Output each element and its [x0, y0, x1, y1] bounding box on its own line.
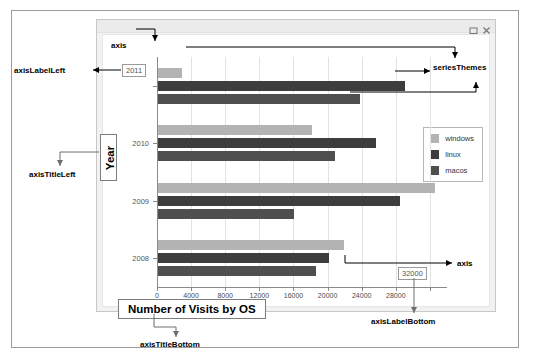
x-tick: [293, 287, 294, 291]
callout-axis-label-bottom: axisLabelBottom: [371, 317, 435, 326]
bar-macos-2008: [158, 266, 316, 276]
bar-macos-2011: [158, 94, 360, 104]
window-controls: [469, 21, 491, 30]
gridline: [396, 57, 397, 287]
legend-swatch-icon: [430, 166, 439, 175]
bar-chart: windowslinuxmacos 0400080001200016000200…: [103, 35, 489, 306]
x-tick-label: 8000: [217, 292, 233, 299]
x-tick: [157, 287, 158, 291]
axis-label-left-highlight[interactable]: 2011: [122, 64, 146, 77]
bar-linux-2008: [158, 253, 329, 263]
y-tick: [153, 201, 157, 202]
axis-title-left-text: Year: [104, 136, 116, 181]
gridline: [430, 57, 431, 287]
callout-series-themes: seriesThemes: [433, 63, 486, 72]
legend-swatch-icon: [430, 150, 439, 159]
y-tick-label: 2009: [109, 196, 149, 205]
x-tick-label: 0: [155, 292, 159, 299]
bar-linux-2009: [158, 196, 400, 206]
x-tick-label: 28000: [386, 292, 405, 299]
axis-title-bottom-highlight[interactable]: Number of Visits by OS: [118, 299, 266, 319]
chart-legend: windowslinuxmacos: [423, 127, 483, 182]
bar-windows-2009: [158, 183, 435, 193]
x-tick-label: 20000: [318, 292, 337, 299]
legend-label: macos: [445, 166, 467, 175]
x-axis-line: [157, 287, 447, 288]
axis-label-bottom-highlight[interactable]: 32000: [398, 267, 427, 280]
gridline: [362, 57, 363, 287]
y-tick: [153, 86, 157, 87]
bar-windows-2008: [158, 240, 344, 250]
legend-item-windows[interactable]: windows: [430, 134, 474, 143]
bar-macos-2009: [158, 209, 294, 219]
maximize-icon[interactable]: [469, 21, 478, 30]
y-tick-label: 2008: [109, 254, 149, 263]
legend-swatch-icon: [430, 134, 439, 143]
x-tick-label: 12000: [250, 292, 269, 299]
x-tick: [191, 287, 192, 291]
close-icon[interactable]: [482, 21, 491, 30]
y-tick: [153, 258, 157, 259]
x-tick: [362, 287, 363, 291]
bar-windows-2011: [158, 68, 182, 78]
callout-axis-bottom: axis: [457, 259, 473, 268]
plot-area: windowslinuxmacos 0400080001200016000200…: [102, 34, 490, 307]
axis-title-left-highlight[interactable]: Year: [100, 134, 117, 181]
y-tick: [153, 143, 157, 144]
bar-linux-2011: [158, 81, 405, 91]
x-tick-label: 24000: [352, 292, 371, 299]
legend-item-linux[interactable]: linux: [430, 150, 474, 159]
callout-axis-top: axis: [111, 41, 127, 50]
window-titlebar: [97, 20, 495, 33]
x-tick-label: 4000: [183, 292, 199, 299]
bar-linux-2010: [158, 138, 376, 148]
bar-macos-2010: [158, 151, 335, 161]
x-tick: [328, 287, 329, 291]
annotated-chart-figure: windowslinuxmacos 0400080001200016000200…: [0, 0, 533, 358]
legend-item-macos[interactable]: macos: [430, 166, 474, 175]
x-tick: [396, 287, 397, 291]
x-tick: [259, 287, 260, 291]
callout-axis-title-bottom: axisTitleBottom: [140, 340, 200, 349]
x-tick-label: 16000: [284, 292, 303, 299]
callout-axis-title-left: axisTitleLeft: [29, 170, 76, 179]
x-tick: [430, 287, 431, 291]
x-tick: [225, 287, 226, 291]
legend-label: linux: [445, 150, 460, 159]
bar-windows-2010: [158, 125, 312, 135]
legend-label: windows: [445, 134, 474, 143]
callout-axis-label-left: axisLabelLeft: [14, 66, 65, 75]
